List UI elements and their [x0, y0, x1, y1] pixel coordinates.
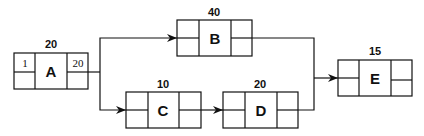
node-c-duration: 10 — [157, 78, 169, 90]
node-b: 40 B — [177, 6, 252, 56]
node-d: 20 D — [223, 78, 298, 128]
node-a: 20 1 20 A — [14, 38, 88, 89]
node-e-label: E — [370, 70, 380, 87]
node-a-top-left: 1 — [22, 57, 28, 69]
node-b-label: B — [210, 30, 221, 47]
network-diagram: 20 1 20 A 40 B 10 C 20 D — [0, 0, 424, 136]
edge-a-c — [100, 72, 126, 110]
edge-a-b — [100, 38, 177, 72]
node-a-duration: 20 — [45, 38, 57, 50]
node-a-label: A — [46, 63, 57, 80]
node-b-duration: 40 — [208, 6, 220, 18]
node-e: 15 E — [338, 45, 412, 96]
node-c-label: C — [158, 102, 169, 119]
node-c: 10 C — [126, 78, 201, 128]
node-d-duration: 20 — [254, 78, 266, 90]
node-a-top-right: 20 — [73, 57, 85, 69]
node-d-label: D — [256, 102, 267, 119]
node-e-duration: 15 — [369, 45, 381, 57]
